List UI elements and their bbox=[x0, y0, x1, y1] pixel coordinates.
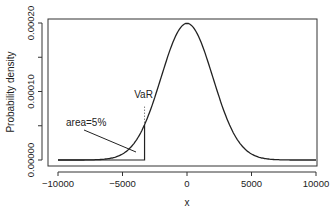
area-label: area=5% bbox=[66, 117, 106, 128]
y-tick-label: 0.00010 bbox=[25, 74, 36, 108]
x-axis-label: x bbox=[185, 197, 190, 208]
density-plot: −10000−50000500010000 0.000000.000100.00… bbox=[0, 0, 335, 215]
y-axis: 0.000000.000100.00020 bbox=[25, 6, 42, 177]
x-tick-label: 0 bbox=[184, 178, 189, 189]
x-tick-label: 5000 bbox=[241, 178, 262, 189]
x-axis: −10000−50000500010000 bbox=[42, 172, 329, 189]
y-tick-label: 0.00020 bbox=[25, 6, 36, 40]
x-tick-label: 10000 bbox=[303, 178, 329, 189]
y-axis-label: Probability density bbox=[5, 51, 16, 132]
plot-frame bbox=[48, 19, 317, 166]
area-pointer-line bbox=[84, 130, 136, 152]
x-tick-label: −5000 bbox=[109, 178, 136, 189]
var-tail-boundary bbox=[58, 125, 145, 160]
var-label: VaR bbox=[134, 89, 153, 100]
x-tick-label: −10000 bbox=[42, 178, 74, 189]
chart: −10000−50000500010000 0.000000.000100.00… bbox=[0, 0, 335, 215]
density-curve bbox=[58, 23, 316, 160]
y-tick-label: 0.00000 bbox=[25, 143, 36, 177]
